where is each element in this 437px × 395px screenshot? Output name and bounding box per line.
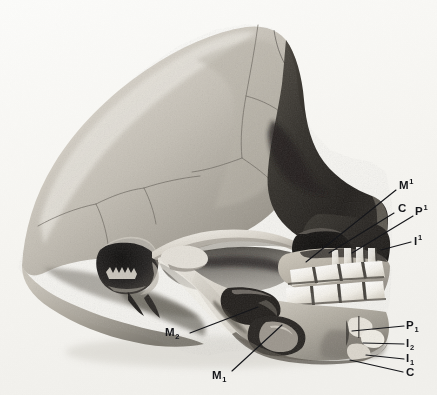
label-letter: I <box>414 235 417 247</box>
label-lower-first-premolar: P1 <box>406 320 419 332</box>
label-index: 1 <box>423 203 427 212</box>
label-letter: M <box>212 369 222 381</box>
skull-photograph <box>0 0 437 395</box>
label-upper-first-incisor: I1 <box>414 236 422 248</box>
label-index: 2 <box>410 343 414 352</box>
label-index: 1 <box>414 325 418 334</box>
anatomical-figure: M1CP1I1P1I2I1CM2M1 <box>0 0 437 395</box>
label-letter: P <box>415 205 423 217</box>
label-letter: M <box>399 179 409 191</box>
label-lower-first-incisor: I1 <box>406 353 414 365</box>
label-letter: I <box>406 352 409 364</box>
label-lower-first-molar: M1 <box>212 370 227 382</box>
label-upper-canine: C <box>398 203 407 215</box>
label-letter: P <box>406 319 414 331</box>
label-letter: C <box>398 202 407 214</box>
label-upper-first-molar: M1 <box>399 180 414 192</box>
label-letter: I <box>406 337 409 349</box>
label-index: 1 <box>418 233 422 242</box>
label-lower-second-incisor: I2 <box>406 338 414 350</box>
label-lower-second-molar: M2 <box>165 327 180 339</box>
label-upper-first-premolar: P1 <box>415 206 428 218</box>
label-index: 2 <box>175 332 179 341</box>
label-index: 1 <box>409 177 413 186</box>
label-lower-canine: C <box>406 367 415 379</box>
label-index: 1 <box>222 375 226 384</box>
label-letter: C <box>406 366 415 378</box>
label-letter: M <box>165 326 175 338</box>
